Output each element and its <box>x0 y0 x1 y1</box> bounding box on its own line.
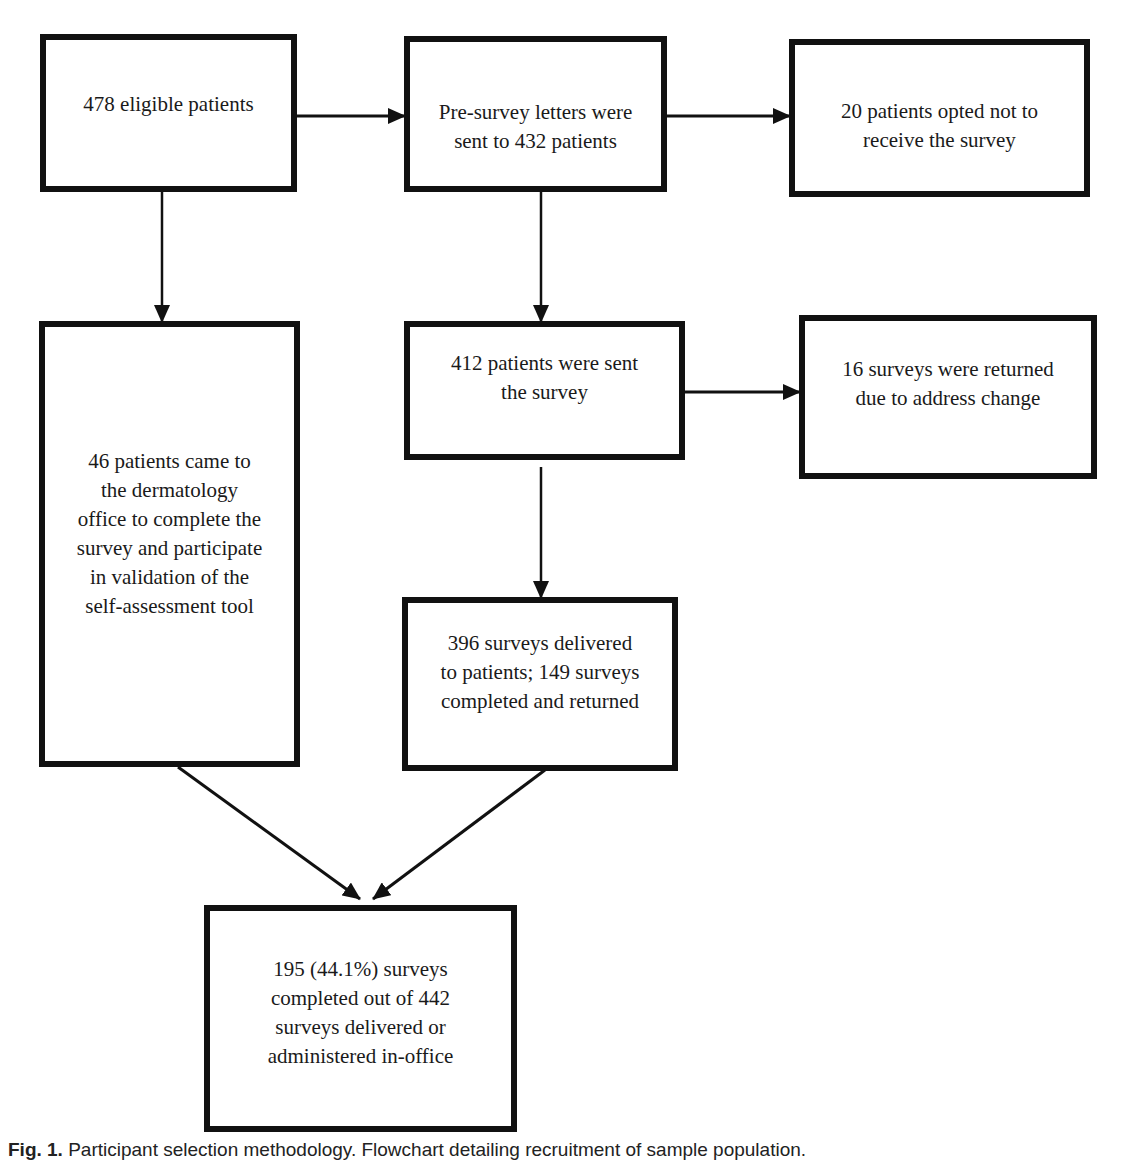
node-text-line: 195 (44.1%) surveys <box>218 955 503 984</box>
node-text-line: self-assessment tool <box>53 592 286 621</box>
node-text-line: Pre-survey letters were <box>418 98 653 127</box>
node-presurvey-letters: Pre-survey letters were sent to 432 pati… <box>404 36 667 192</box>
node-text-line: sent to 432 patients <box>418 127 653 156</box>
node-text-line: completed and returned <box>416 687 664 716</box>
node-in-office-patients: 46 patients came to the dermatology offi… <box>39 321 300 767</box>
arrow-delivered-to-total <box>373 770 545 899</box>
caption-label: Fig. 1. <box>8 1139 63 1160</box>
node-text-line: administered in-office <box>218 1042 503 1071</box>
node-surveys-delivered: 396 surveys delivered to patients; 149 s… <box>402 597 678 771</box>
node-total-completed: 195 (44.1%) surveys completed out of 442… <box>204 905 517 1132</box>
node-text-line: 46 patients came to <box>53 447 286 476</box>
node-text-line: the survey <box>418 378 671 407</box>
node-text-line: to patients; 149 surveys <box>416 658 664 687</box>
caption-text: Participant selection methodology. Flowc… <box>68 1139 806 1160</box>
node-text-line: 20 patients opted not to <box>803 97 1076 126</box>
node-text-line: in validation of the <box>53 563 286 592</box>
node-returned-address-change: 16 surveys were returned due to address … <box>799 315 1097 479</box>
node-text-line: 412 patients were sent <box>418 349 671 378</box>
node-survey-sent: 412 patients were sent the survey <box>404 321 685 460</box>
node-text-line: 478 eligible patients <box>54 90 283 119</box>
node-text-line: due to address change <box>813 384 1083 413</box>
node-text-line: receive the survey <box>803 126 1076 155</box>
node-text-line: 396 surveys delivered <box>416 629 664 658</box>
node-eligible-patients: 478 eligible patients <box>40 34 297 192</box>
node-text-line: survey and participate <box>53 534 286 563</box>
node-text-line: completed out of 442 <box>218 984 503 1013</box>
figure-caption: Fig. 1. Participant selection methodolog… <box>0 1138 1130 1162</box>
node-text-line: the dermatology <box>53 476 286 505</box>
node-text-line: office to complete the <box>53 505 286 534</box>
node-opted-out: 20 patients opted not to receive the sur… <box>789 39 1090 197</box>
arrow-inoffice-to-total <box>178 767 360 899</box>
node-text-line: surveys delivered or <box>218 1013 503 1042</box>
node-text-line: 16 surveys were returned <box>813 355 1083 384</box>
